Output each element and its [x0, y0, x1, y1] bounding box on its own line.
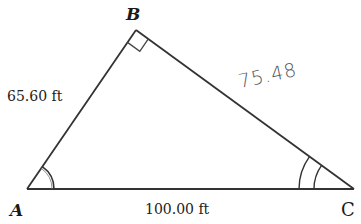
vertex-label-b: B — [125, 4, 140, 24]
side-label-bc-handwritten: 75.48 — [236, 58, 299, 92]
angle-arc-c-inner — [314, 165, 322, 189]
vertex-label-a: A — [8, 200, 23, 220]
side-ab — [27, 30, 136, 189]
triangle-diagram: A B C 65.60 ft 100.00 ft 75.48 — [0, 0, 361, 224]
side-label-ab: 65.60 ft — [7, 88, 63, 104]
angle-arc-c-outer — [299, 157, 310, 189]
angle-arc-a-inner — [41, 168, 52, 189]
right-angle-mark-b — [128, 39, 149, 51]
angle-arc-a — [42, 167, 54, 189]
vertex-label-c: C — [341, 199, 355, 220]
side-label-ac: 100.00 ft — [145, 201, 210, 217]
side-bc — [136, 30, 354, 189]
